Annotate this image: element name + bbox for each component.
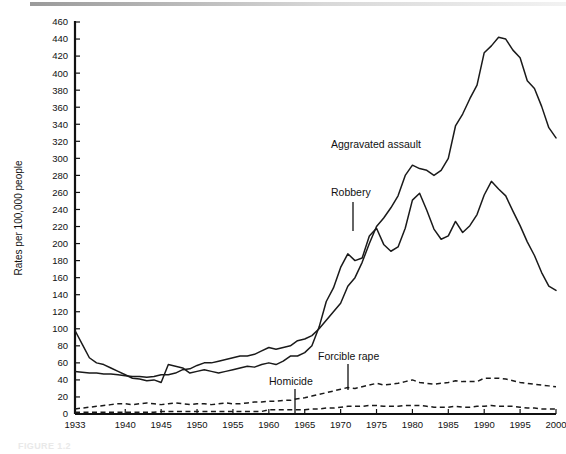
- y-tick-label: 320: [52, 136, 68, 147]
- y-tick-label: 300: [52, 153, 68, 164]
- x-tick-label: 1950: [186, 419, 207, 430]
- y-tick-label: 340: [52, 119, 68, 130]
- y-tick-label: 80: [57, 340, 68, 351]
- y-tick-label: 0: [63, 408, 68, 419]
- series-label-homicide: Homicide: [269, 375, 313, 387]
- y-tick-label: 420: [52, 50, 68, 61]
- y-axis-title: Rates per 100,000 people: [13, 160, 24, 276]
- series-label-aggravated-assault: Aggravated assault: [331, 138, 421, 150]
- y-tick-label: 120: [52, 306, 68, 317]
- y-tick-label: 180: [52, 255, 68, 266]
- series-line-forcible-rape: [75, 378, 556, 409]
- y-tick-label: 220: [52, 221, 68, 232]
- annotation-layer: Aggravated assaultRobberyHomicideForcibl…: [269, 138, 421, 413]
- x-tick-label: 1995: [510, 419, 531, 430]
- series-line-robbery: [75, 181, 556, 382]
- y-tick-label: 20: [57, 391, 68, 402]
- y-tick-label: 380: [52, 85, 68, 96]
- x-axis: 1933194019451950195519601965197019751980…: [64, 409, 566, 430]
- x-tick-label: 1965: [294, 419, 315, 430]
- y-tick-label: 260: [52, 187, 68, 198]
- y-tick-label: 100: [52, 323, 68, 334]
- x-tick-label: 2000: [545, 419, 566, 430]
- x-tick-label: 1933: [64, 419, 85, 430]
- y-tick-label: 440: [52, 33, 68, 44]
- y-tick-label: 400: [52, 68, 68, 79]
- y-tick-label: 200: [52, 238, 68, 249]
- crime-rate-line-chart: 0204060801001201401601802002202402602803…: [0, 0, 566, 440]
- x-tick-label: 1945: [151, 419, 172, 430]
- x-tick-label: 1970: [330, 419, 351, 430]
- y-tick-label: 140: [52, 289, 68, 300]
- y-tick-label: 60: [57, 357, 68, 368]
- figure-container: 0204060801001201401601802002202402602803…: [0, 0, 566, 454]
- x-tick-label: 1960: [258, 419, 279, 430]
- y-tick-label: 460: [52, 16, 68, 27]
- x-tick-label: 1990: [474, 419, 495, 430]
- y-axis: 0204060801001201401601802002202402602803…: [52, 16, 80, 419]
- x-tick-label: 1940: [115, 419, 136, 430]
- x-tick-label: 1985: [438, 419, 459, 430]
- series-label-robbery: Robbery: [331, 186, 371, 198]
- x-tick-label: 1975: [366, 419, 387, 430]
- series-layer: [75, 37, 556, 412]
- series-line-aggravated-assault: [75, 37, 556, 377]
- series-label-forcible-rape: Forcible rape: [318, 350, 379, 362]
- y-tick-label: 160: [52, 272, 68, 283]
- y-tick-label: 240: [52, 204, 68, 215]
- x-tick-label: 1980: [402, 419, 423, 430]
- y-tick-label: 280: [52, 170, 68, 181]
- x-tick-label: 1955: [222, 419, 243, 430]
- y-tick-label: 360: [52, 102, 68, 113]
- figure-caption: FIGURE 1.2: [18, 441, 71, 451]
- y-tick-label: 40: [57, 374, 68, 385]
